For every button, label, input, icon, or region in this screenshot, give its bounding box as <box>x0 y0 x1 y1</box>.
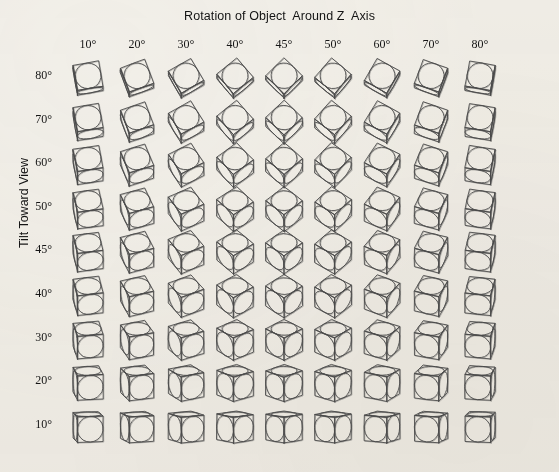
cube-cell-tilt45-rot40 <box>212 229 258 275</box>
cube-cell-tilt40-rot30 <box>163 273 209 319</box>
cube-cell-tilt20-rot40 <box>212 360 258 406</box>
cube-cell-tilt80-rot40 <box>212 55 258 101</box>
cube-cell-tilt60-rot50 <box>310 142 356 188</box>
cube-cell-tilt10-rot10 <box>65 404 111 450</box>
cube-cell-tilt30-rot30 <box>163 317 209 363</box>
cube-cell-tilt60-rot80 <box>457 142 503 188</box>
cube-cell-tilt70-rot20 <box>114 99 160 145</box>
cube-cell-tilt70-rot50 <box>310 99 356 145</box>
cube-cell-tilt50-rot30 <box>163 186 209 232</box>
row-label-45: 45° <box>8 242 52 257</box>
cube-cell-tilt60-rot45 <box>261 142 307 188</box>
cube-cell-tilt80-rot50 <box>310 55 356 101</box>
row-label-60: 60° <box>8 155 52 170</box>
row-label-20: 20° <box>8 373 52 388</box>
column-label-40: 40° <box>215 37 255 52</box>
column-label-10: 10° <box>68 37 108 52</box>
cube-cell-tilt70-rot70 <box>408 99 454 145</box>
cube-cell-tilt40-rot20 <box>114 273 160 319</box>
cube-cell-tilt20-rot45 <box>261 360 307 406</box>
cube-cell-tilt20-rot30 <box>163 360 209 406</box>
cube-cell-tilt40-rot10 <box>65 273 111 319</box>
cube-cell-tilt80-rot45 <box>261 55 307 101</box>
cube-cell-tilt10-rot80 <box>457 404 503 450</box>
column-label-80: 80° <box>460 37 500 52</box>
cube-cell-tilt60-rot40 <box>212 142 258 188</box>
cube-cell-tilt30-rot20 <box>114 317 160 363</box>
cube-cell-tilt40-rot70 <box>408 273 454 319</box>
cube-cell-tilt45-rot80 <box>457 229 503 275</box>
cube-cell-tilt40-rot40 <box>212 273 258 319</box>
cube-cell-tilt80-rot80 <box>457 55 503 101</box>
cube-cell-tilt10-rot45 <box>261 404 307 450</box>
column-label-20: 20° <box>117 37 157 52</box>
row-label-30: 30° <box>8 330 52 345</box>
cube-cell-tilt45-rot20 <box>114 229 160 275</box>
cube-cell-tilt30-rot60 <box>359 317 405 363</box>
cube-cell-tilt30-rot50 <box>310 317 356 363</box>
cube-cell-tilt40-rot50 <box>310 273 356 319</box>
row-label-40: 40° <box>8 286 52 301</box>
cube-cell-tilt10-rot20 <box>114 404 160 450</box>
cube-cell-tilt45-rot60 <box>359 229 405 275</box>
cube-cell-tilt45-rot30 <box>163 229 209 275</box>
cube-cell-tilt80-rot60 <box>359 55 405 101</box>
cube-cell-tilt30-rot40 <box>212 317 258 363</box>
cube-cell-tilt50-rot70 <box>408 186 454 232</box>
cube-cell-tilt60-rot10 <box>65 142 111 188</box>
cube-cell-tilt80-rot10 <box>65 55 111 101</box>
cube-cell-tilt20-rot60 <box>359 360 405 406</box>
cube-cell-tilt50-rot50 <box>310 186 356 232</box>
cube-cell-tilt20-rot10 <box>65 360 111 406</box>
cube-cell-tilt20-rot50 <box>310 360 356 406</box>
row-label-50: 50° <box>8 199 52 214</box>
row-label-10: 10° <box>8 417 52 432</box>
column-label-60: 60° <box>362 37 402 52</box>
cube-cell-tilt50-rot60 <box>359 186 405 232</box>
cube-cell-tilt50-rot10 <box>65 186 111 232</box>
cube-cell-tilt60-rot30 <box>163 142 209 188</box>
cube-cell-tilt70-rot40 <box>212 99 258 145</box>
cube-cell-tilt40-rot45 <box>261 273 307 319</box>
cube-cell-tilt70-rot45 <box>261 99 307 145</box>
chart-title: Rotation of Object Around Z Axis <box>0 9 559 23</box>
cube-cell-tilt45-rot10 <box>65 229 111 275</box>
cube-cell-tilt30-rot70 <box>408 317 454 363</box>
cube-cell-tilt60-rot70 <box>408 142 454 188</box>
figure-canvas: Rotation of Object Around Z Axis Tilt To… <box>0 0 559 472</box>
cube-cell-tilt70-rot10 <box>65 99 111 145</box>
cube-cell-tilt10-rot50 <box>310 404 356 450</box>
column-label-45: 45° <box>264 37 304 52</box>
row-label-80: 80° <box>8 68 52 83</box>
cube-cell-tilt30-rot45 <box>261 317 307 363</box>
cube-cell-tilt80-rot20 <box>114 55 160 101</box>
cube-cell-tilt10-rot40 <box>212 404 258 450</box>
cube-cell-tilt20-rot80 <box>457 360 503 406</box>
row-label-70: 70° <box>8 112 52 127</box>
cube-cell-tilt50-rot20 <box>114 186 160 232</box>
cube-cell-tilt45-rot45 <box>261 229 307 275</box>
cube-cell-tilt10-rot30 <box>163 404 209 450</box>
column-label-70: 70° <box>411 37 451 52</box>
cube-cell-tilt45-rot50 <box>310 229 356 275</box>
cube-cell-tilt60-rot20 <box>114 142 160 188</box>
cube-cell-tilt30-rot80 <box>457 317 503 363</box>
cube-cell-tilt30-rot10 <box>65 317 111 363</box>
cube-cell-tilt20-rot70 <box>408 360 454 406</box>
cube-cell-tilt70-rot80 <box>457 99 503 145</box>
cube-cell-tilt80-rot30 <box>163 55 209 101</box>
cube-cell-tilt50-rot40 <box>212 186 258 232</box>
cube-cell-tilt50-rot80 <box>457 186 503 232</box>
cube-cell-tilt50-rot45 <box>261 186 307 232</box>
cube-cell-tilt10-rot70 <box>408 404 454 450</box>
cube-cell-tilt40-rot80 <box>457 273 503 319</box>
cube-cell-tilt40-rot60 <box>359 273 405 319</box>
cube-cell-tilt70-rot30 <box>163 99 209 145</box>
cube-cell-tilt45-rot70 <box>408 229 454 275</box>
cube-cell-tilt10-rot60 <box>359 404 405 450</box>
cube-cell-tilt60-rot60 <box>359 142 405 188</box>
cube-cell-tilt70-rot60 <box>359 99 405 145</box>
column-label-30: 30° <box>166 37 206 52</box>
column-label-50: 50° <box>313 37 353 52</box>
cube-cell-tilt20-rot20 <box>114 360 160 406</box>
